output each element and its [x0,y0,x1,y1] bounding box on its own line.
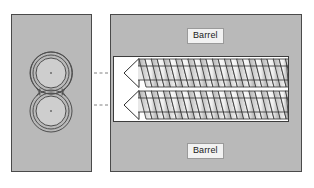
cross-section-panel [12,15,92,172]
upper-bore-center-point [50,72,52,74]
barrel-label-top: Barrel [187,28,224,44]
upper-screw [124,59,292,88]
upper-screw-flights [139,59,292,87]
lower-bore-center-point [50,110,52,112]
lower-screw [124,91,292,120]
upper-bore [30,52,72,94]
lower-screw-flights [139,91,292,119]
barrel-label-bottom: Barrel [187,143,224,159]
alignment-connectors [94,73,112,105]
figure-canvas [0,0,314,188]
lower-bore [30,90,72,132]
twin-screw-extruder-figure: Barrel Barrel [0,0,314,188]
